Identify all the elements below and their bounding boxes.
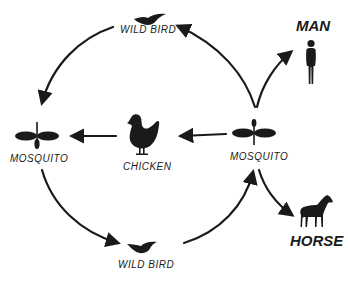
- bird-icon: [127, 242, 157, 253]
- arrow-mosquito-right-to-horse: [259, 170, 292, 215]
- label-chicken: CHICKEN: [123, 161, 172, 172]
- person-icon: [306, 40, 316, 84]
- arrow-wildbird-to-mosquito-right: [184, 172, 253, 243]
- arrow-mosquito-right-to-chicken: [181, 134, 226, 136]
- label-wild-bird-top: WILD BIRD: [120, 24, 176, 35]
- arrow-mosquito-left-to-wildbird: [42, 170, 118, 243]
- horse-icon: [300, 195, 333, 227]
- label-wild-bird-bottom: WILD BIRD: [118, 259, 174, 270]
- label-mosquito-right: MOSQUITO: [230, 151, 288, 162]
- arrow-mosquito-right-to-man: [257, 52, 291, 107]
- arrow-wildbird-to-mosquito-left: [42, 27, 113, 103]
- label-man: MAN: [296, 17, 330, 34]
- mosquito-icon: [15, 122, 59, 149]
- label-mosquito-left: MOSQUITO: [10, 153, 68, 164]
- arrow-mosquito-right-to-wildbird: [178, 26, 255, 107]
- mosquito-icon: [232, 119, 276, 145]
- label-horse: HORSE: [290, 232, 343, 249]
- chicken-icon: [127, 114, 159, 155]
